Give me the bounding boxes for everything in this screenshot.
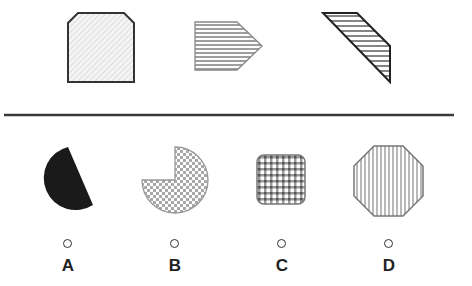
option-b-radio[interactable] [170, 239, 179, 248]
option-c-shape [257, 155, 305, 204]
option-a-label[interactable]: A [48, 256, 88, 276]
question-shape-3 [323, 13, 390, 82]
question-shape-2 [195, 22, 262, 70]
question-shape-1 [68, 13, 134, 82]
option-a-radio[interactable] [63, 239, 72, 248]
option-c-label[interactable]: C [262, 256, 302, 276]
option-b-shape [142, 147, 208, 213]
option-d-radio[interactable] [384, 239, 393, 248]
option-b-label[interactable]: B [155, 256, 195, 276]
option-a-shape [44, 147, 93, 210]
option-c-radio[interactable] [277, 239, 286, 248]
option-d-shape [354, 146, 423, 216]
option-d-label[interactable]: D [369, 256, 409, 276]
